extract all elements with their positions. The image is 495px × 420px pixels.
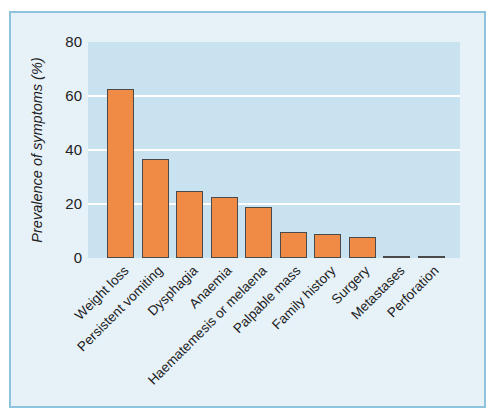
bar-4 xyxy=(245,207,272,258)
bar-0 xyxy=(107,89,134,258)
bar-5 xyxy=(280,232,307,258)
y-tick-label-0: 0 xyxy=(32,249,82,267)
bar-2 xyxy=(176,191,203,258)
chart-figure: Prevalence of symptoms (%) 020406080 Wei… xyxy=(9,11,486,408)
y-tick-label-60: 60 xyxy=(32,87,82,105)
gridline-40 xyxy=(88,149,460,151)
bar-1 xyxy=(142,159,169,258)
y-tick-label-80: 80 xyxy=(32,33,82,51)
bar-8 xyxy=(383,256,410,258)
bar-6 xyxy=(314,234,341,258)
y-tick-label-40: 40 xyxy=(32,141,82,159)
bar-9 xyxy=(418,256,445,258)
y-tick-label-20: 20 xyxy=(32,195,82,213)
plot-area xyxy=(88,42,460,258)
bar-7 xyxy=(349,237,376,258)
gridline-60 xyxy=(88,95,460,97)
bar-3 xyxy=(211,197,238,258)
